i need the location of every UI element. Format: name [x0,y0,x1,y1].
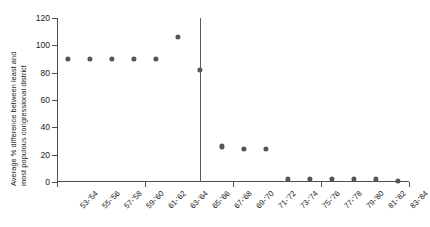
y-tick [52,73,57,74]
x-tick [321,182,322,187]
x-tick-label: 75-'76 [320,189,342,211]
y-tick [52,18,57,19]
x-tick [233,182,234,187]
x-tick-label: 73-'74 [298,189,320,211]
x-tick-label: 53-'54 [78,189,100,211]
x-tick-label: 77-'78 [342,189,364,211]
x-tick-label: 79-'80 [364,189,386,211]
x-tick-label: 55-'56 [100,189,122,211]
x-tick [57,182,58,187]
y-tick-label: 20 [26,150,50,160]
y-tick [52,100,57,101]
x-tick-label: 63-'64 [188,189,210,211]
data-point [175,35,180,40]
x-tick-label: 69-'70 [254,189,276,211]
data-point [87,56,92,61]
y-tick-label: 100 [26,40,50,50]
x-tick-label: 81-'82 [386,189,408,211]
y-axis-title-line-1: Average % difference between least and [9,52,19,186]
x-tick [409,182,410,187]
y-tick-label: 120 [26,13,50,23]
y-tick [52,45,57,46]
y-tick-label: 60 [26,95,50,105]
x-tick-label: 61-'62 [166,189,188,211]
x-tick-label: 65-'66 [210,189,232,211]
data-point [197,67,202,72]
x-tick-label: 57-'58 [122,189,144,211]
data-point [131,56,136,61]
y-tick [52,127,57,128]
data-point [395,178,400,183]
y-axis-line [57,18,58,182]
data-point [65,56,70,61]
reference-line-marker [200,18,201,182]
data-point [263,147,268,152]
data-point [153,56,158,61]
x-tick-label: 71-'72 [276,189,298,211]
y-tick-label: 0 [26,177,50,187]
y-tick [52,155,57,156]
x-tick-label: 59-'60 [144,189,166,211]
data-point [241,147,246,152]
x-tick [145,182,146,187]
x-tick-label: 67-'68 [232,189,254,211]
data-point [219,144,224,149]
y-tick-label: 40 [26,122,50,132]
x-tick-label: 83-'84 [408,189,430,211]
data-point [109,56,114,61]
y-tick-label: 80 [26,68,50,78]
